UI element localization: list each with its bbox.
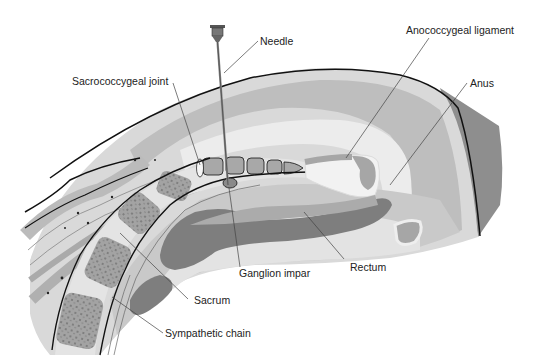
label-ganglion-impar: Ganglion impar (239, 267, 310, 279)
label-needle: Needle (260, 35, 293, 47)
anatomy-diagram (0, 0, 541, 359)
label-anococcygeal-ligament: Anococcygeal ligament (406, 24, 514, 36)
label-sympathetic-chain: Sympathetic chain (165, 327, 251, 339)
label-sacrum: Sacrum (194, 294, 230, 306)
label-anus: Anus (470, 77, 494, 89)
label-sacrococcygeal-joint: Sacrococcygeal joint (72, 75, 168, 87)
ganglion-impar (223, 178, 237, 188)
label-rectum: Rectum (350, 261, 386, 273)
